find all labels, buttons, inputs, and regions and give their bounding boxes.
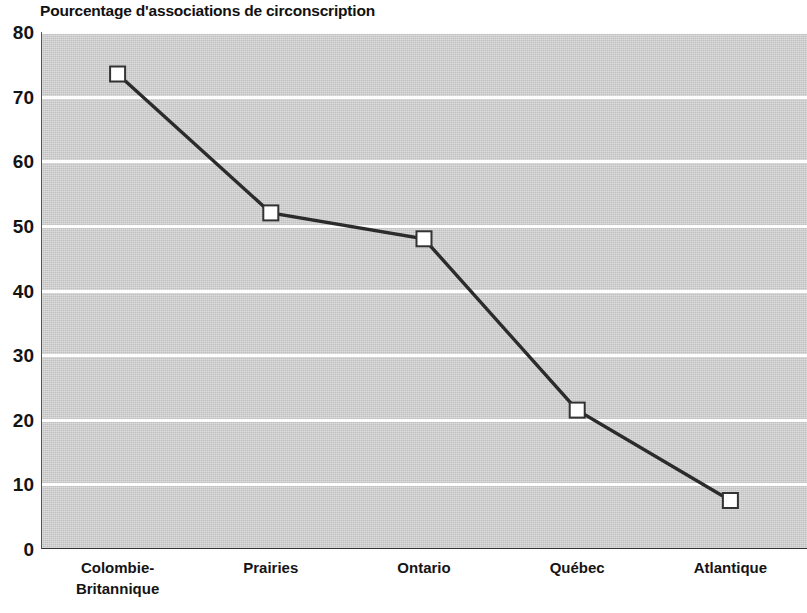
gridline bbox=[42, 290, 807, 293]
x-axis-tick-label-line: Colombie- bbox=[33, 557, 203, 578]
x-axis-tick-label-line: Prairies bbox=[186, 557, 356, 578]
chart-figure: Pourcentage d'associations de circonscri… bbox=[0, 0, 807, 613]
x-axis-tick-label-line: Atlantique bbox=[645, 557, 807, 578]
x-axis-tick-label: Prairies bbox=[186, 557, 356, 578]
x-axis-tick-label: Colombie-Britannique bbox=[33, 557, 203, 599]
y-axis-tick-label: 10 bbox=[0, 475, 34, 494]
y-axis-tick-label: 20 bbox=[0, 410, 34, 429]
gridline bbox=[42, 160, 807, 163]
y-axis-tick-label: 0 bbox=[0, 540, 34, 559]
gridline bbox=[42, 32, 807, 34]
y-axis-tick-label: 50 bbox=[0, 216, 34, 235]
x-axis-tick-label: Québec bbox=[492, 557, 662, 578]
x-axis-tick-label: Ontario bbox=[339, 557, 509, 578]
gridline bbox=[42, 225, 807, 228]
x-axis-tick-label-line: Britannique bbox=[33, 578, 203, 599]
x-axis-tick-label-line: Québec bbox=[492, 557, 662, 578]
y-axis-tick-label: 30 bbox=[0, 346, 34, 365]
x-axis-tick-label: Atlantique bbox=[645, 557, 807, 578]
y-axis-tick-label: 40 bbox=[0, 281, 34, 300]
y-axis-tick-label: 60 bbox=[0, 152, 34, 171]
gridline bbox=[42, 354, 807, 357]
chart-title: Pourcentage d'associations de circonscri… bbox=[40, 0, 375, 22]
y-axis-tick-label: 70 bbox=[0, 87, 34, 106]
y-axis-tick-label: 80 bbox=[0, 23, 34, 42]
gridline bbox=[42, 96, 807, 99]
plot-area bbox=[41, 32, 807, 549]
x-axis-tick-label-line: Ontario bbox=[339, 557, 509, 578]
gridline bbox=[42, 419, 807, 422]
gridline bbox=[42, 483, 807, 486]
